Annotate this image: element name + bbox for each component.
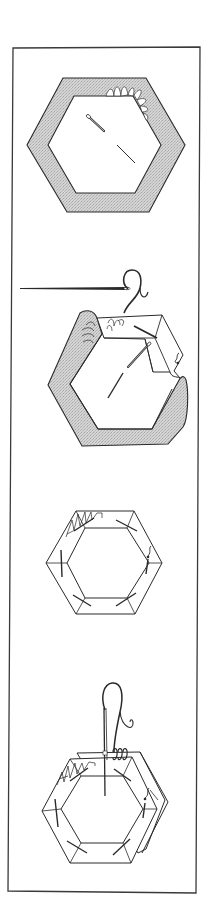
step-3-basted-hexagon xyxy=(46,511,162,614)
thread-icon xyxy=(124,270,141,313)
flower-print-icon xyxy=(106,87,148,120)
instruction-illustration: English paper piecing instructions: four… xyxy=(0,0,210,921)
step-1-pinned-template xyxy=(27,78,185,212)
step-4-whipstitching-hexagons xyxy=(42,683,168,863)
thread-icon xyxy=(103,683,122,752)
pin-icon xyxy=(117,145,135,163)
pin-icon xyxy=(108,341,152,398)
step-2-folding-and-basting xyxy=(20,270,188,446)
pin-icon xyxy=(86,114,104,131)
needle-icon xyxy=(20,287,130,290)
